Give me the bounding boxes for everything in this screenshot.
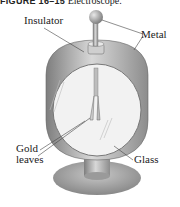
label-insulator: Insulator [24,14,63,26]
label-metal: Metal [141,28,167,40]
label-gold-line2: leaves [16,153,43,165]
label-glass: Glass [134,153,158,165]
